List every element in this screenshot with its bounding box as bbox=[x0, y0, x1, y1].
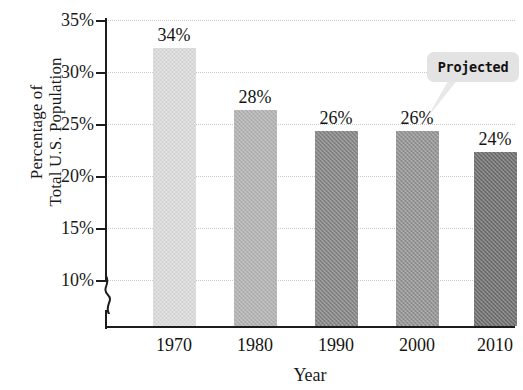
x-tick-label-2000: 2000 bbox=[377, 336, 457, 354]
bar-value-1970: 34% bbox=[139, 26, 209, 44]
bar-value-2010: 24% bbox=[460, 130, 523, 148]
bar-texture bbox=[315, 131, 358, 326]
y-tick-label-30: 30% bbox=[36, 63, 94, 81]
bar-value-1990: 26% bbox=[301, 109, 371, 127]
bar-texture bbox=[396, 131, 439, 326]
y-tick-label-25: 25% bbox=[36, 115, 94, 133]
axis-break-icon bbox=[99, 276, 117, 314]
bar-texture bbox=[474, 152, 517, 326]
x-tick-label-1980: 1980 bbox=[215, 336, 295, 354]
callout-tail-icon bbox=[421, 76, 461, 120]
x-axis-title: Year bbox=[105, 366, 515, 384]
bar-1990 bbox=[315, 131, 358, 326]
callout-label: Projected bbox=[438, 59, 508, 75]
y-tick-label-20: 20% bbox=[36, 167, 94, 185]
x-tick-label-1990: 1990 bbox=[296, 336, 376, 354]
bar-1970 bbox=[153, 48, 196, 326]
y-tick-label-10: 10% bbox=[36, 271, 94, 289]
x-axis-line bbox=[105, 326, 515, 328]
y-tick-label-35: 35% bbox=[36, 11, 94, 29]
y-axis-tick-labels: 35% 30% 25% 20% 15% 10% bbox=[36, 0, 94, 390]
bar-texture bbox=[153, 48, 196, 326]
x-tick-label-1970: 1970 bbox=[134, 336, 214, 354]
bar-chart: Percentage of Total U.S. Population 35% … bbox=[0, 0, 523, 390]
callout-bubble: Projected bbox=[427, 52, 519, 82]
y-axis-line bbox=[105, 18, 107, 282]
bar-texture bbox=[234, 110, 277, 326]
gridline-35 bbox=[106, 20, 515, 21]
x-axis-tick-labels: 1970 1980 1990 2000 2010 bbox=[105, 336, 515, 360]
bar-2010 bbox=[474, 152, 517, 326]
bar-1980 bbox=[234, 110, 277, 326]
projected-callout: Projected bbox=[427, 52, 519, 82]
bar-2000 bbox=[396, 131, 439, 326]
bar-value-1980: 28% bbox=[220, 88, 290, 106]
x-tick-label-2010: 2010 bbox=[455, 336, 523, 354]
y-tick-label-15: 15% bbox=[36, 219, 94, 237]
